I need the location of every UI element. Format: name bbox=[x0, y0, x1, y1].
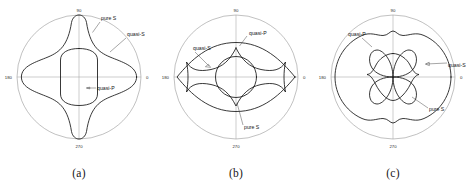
figure-polar-panels: 90 0 270 180 pure S quasi-S quasi-P (a) bbox=[0, 0, 473, 180]
panel-c-plot: 90 0 270 180 quasi-P quasi-S pure S bbox=[314, 0, 473, 165]
label-quasi-p: quasi-P bbox=[97, 85, 115, 91]
panel-b: 90 0 270 180 quasi-P quasi-S pure S (b) bbox=[157, 0, 315, 180]
tick-left: 180 bbox=[319, 75, 327, 80]
label-quasi-s: quasi-S bbox=[193, 45, 211, 51]
caption-c: (c) bbox=[314, 167, 472, 179]
tick-top: 90 bbox=[77, 8, 82, 13]
caption-b: (b) bbox=[157, 167, 315, 179]
leader-quasi-s bbox=[195, 52, 209, 66]
panel-a: 90 0 270 180 pure S quasi-S quasi-P (a) bbox=[0, 0, 158, 180]
tick-right: 0 bbox=[460, 75, 463, 80]
leader-quasi-s-arrow bbox=[205, 64, 210, 67]
leader-quasi-p bbox=[240, 36, 248, 46]
leader-quasi-s bbox=[110, 38, 126, 52]
tick-left: 180 bbox=[5, 75, 13, 80]
panel-b-plot: 90 0 270 180 quasi-P quasi-S pure S bbox=[157, 0, 315, 165]
caption-a: (a) bbox=[0, 167, 158, 179]
label-pure-s: pure S bbox=[101, 15, 117, 21]
leader-pure-s bbox=[237, 103, 243, 125]
panel-a-plot: 90 0 270 180 pure S quasi-S quasi-P bbox=[0, 0, 158, 165]
tick-right: 0 bbox=[146, 75, 149, 80]
tick-bottom: 270 bbox=[232, 144, 240, 149]
tick-left: 180 bbox=[162, 75, 170, 80]
label-pure-s: pure S bbox=[429, 106, 445, 112]
tick-right: 0 bbox=[303, 75, 306, 80]
leader-pure-s bbox=[412, 97, 428, 108]
label-pure-s: pure S bbox=[244, 124, 260, 130]
label-quasi-p: quasi-P bbox=[249, 30, 267, 36]
label-quasi-s: quasi-S bbox=[127, 31, 145, 37]
tick-bottom: 270 bbox=[389, 144, 397, 149]
panel-c: 90 0 270 180 quasi-P quasi-S pure S (c) bbox=[314, 0, 472, 180]
leader-quasi-p bbox=[362, 38, 372, 47]
label-quasi-s: quasi-S bbox=[448, 62, 466, 68]
tick-bottom: 270 bbox=[75, 144, 83, 149]
leader-pure-s bbox=[93, 22, 101, 33]
label-quasi-p: quasi-P bbox=[348, 31, 366, 37]
tick-top: 90 bbox=[391, 8, 396, 13]
tick-top: 90 bbox=[234, 8, 239, 13]
